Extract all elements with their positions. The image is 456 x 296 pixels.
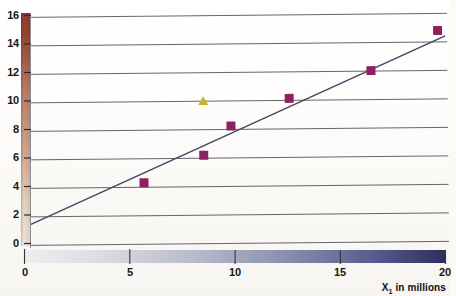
y-tick-label-6: 6: [0, 151, 19, 163]
outlier-triangle-marker: [198, 96, 208, 105]
x-axis-title-rest: in millions: [393, 282, 446, 293]
x-tick-label-15: 15: [328, 266, 352, 278]
y-tick-label-12: 12: [0, 66, 19, 78]
gridline-2: [23, 213, 449, 217]
y-tick-label-4: 4: [0, 180, 19, 192]
y-tick-label-0: 0: [0, 237, 19, 249]
x-tick-label-0: 0: [13, 266, 37, 278]
gridline-16: [21, 13, 447, 17]
data-point-3: [226, 121, 235, 130]
regression-line: [24, 36, 447, 227]
data-point-6: [433, 26, 442, 35]
x-tick-label-10: 10: [223, 266, 247, 278]
data-point-1: [139, 178, 148, 187]
data-point-2: [199, 151, 208, 160]
gridline-12: [21, 70, 447, 74]
x-tick-label-20: 20: [433, 266, 456, 278]
data-point-5: [366, 66, 375, 75]
x-axis-title: X1 in millions: [382, 282, 446, 295]
x-axis-title-base: X: [382, 282, 389, 293]
gridline-14: [21, 42, 447, 46]
gridline-0: [23, 241, 449, 245]
y-tick-label-10: 10: [0, 94, 19, 106]
y-tick-label-8: 8: [0, 123, 19, 135]
y-tick-label-14: 14: [0, 37, 19, 49]
y-tick-label-16: 16: [0, 9, 19, 21]
gridline-6: [22, 156, 448, 160]
data-point-4: [285, 94, 294, 103]
y-tick-label-2: 2: [0, 208, 19, 220]
gridline-10: [22, 99, 448, 103]
x-tick-label-5: 5: [118, 266, 142, 278]
gridline-4: [23, 184, 449, 188]
